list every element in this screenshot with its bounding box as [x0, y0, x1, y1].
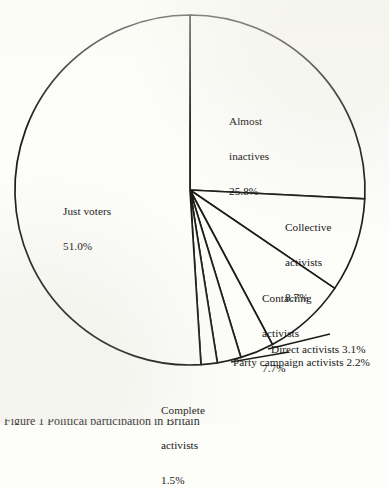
- slice-label-complete-activists-line1: Complete: [161, 405, 205, 417]
- slice-label-collective-activists-line2: activists: [285, 257, 331, 269]
- slice-value-complete-activists: 1.5%: [161, 475, 205, 487]
- slice-label-party-campaign-activists: Party campaign activists 2.2%: [233, 357, 370, 369]
- pie-slice-almost-inactives: [190, 15, 365, 199]
- slice-label-just-voters-line1: Just voters: [63, 206, 111, 218]
- slice-value-almost-inactives: 25.8%: [229, 186, 269, 198]
- slice-label-contacting-activists: Contacting activists 7.7%: [262, 270, 312, 398]
- slice-label-contacting-activists-line2: activists: [262, 328, 312, 340]
- slice-value-just-voters: 51.0%: [63, 241, 111, 253]
- slice-label-almost-inactives-line2: inactives: [229, 151, 269, 163]
- slice-label-complete-activists-line2: activists: [161, 440, 205, 452]
- slice-label-complete-activists: Complete activists 1.5%: [161, 382, 205, 488]
- figure-caption-cropped: Figure 1 Political participation in Brit…: [0, 419, 389, 425]
- figure-caption-text: Figure 1 Political participation in Brit…: [4, 419, 200, 425]
- slice-label-collective-activists-line1: Collective: [285, 222, 331, 234]
- slice-label-almost-inactives-line1: Almost: [229, 116, 269, 128]
- slice-label-direct-activists: Direct activists 3.1%: [271, 344, 366, 356]
- slice-label-contacting-activists-line1: Contacting: [262, 293, 312, 305]
- slice-label-almost-inactives: Almost inactives 25.8%: [229, 93, 269, 221]
- slice-label-just-voters: Just voters 51.0%: [63, 183, 111, 276]
